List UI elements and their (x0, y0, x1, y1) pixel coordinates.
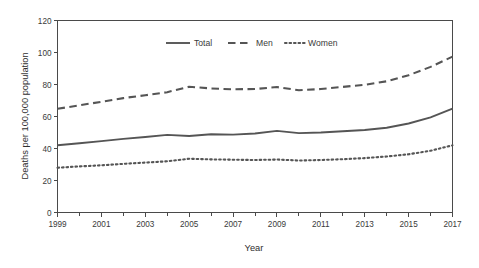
x-tick-label: 2007 (224, 220, 243, 229)
x-tick-label: 2011 (312, 220, 330, 229)
legend-label-men: Men (256, 38, 273, 48)
x-tick-label: 2009 (268, 220, 287, 229)
line-chart: 020406080100120 199920012003200520072009… (0, 0, 479, 268)
y-tick-label: 80 (42, 81, 52, 90)
x-axis-title: Year (245, 243, 264, 253)
x-tick-label: 2001 (92, 220, 111, 229)
legend-label-total: Total (194, 38, 212, 48)
y-axis-title: Deaths per 100,000 population (20, 52, 30, 179)
x-tick-label: 2003 (136, 220, 155, 229)
x-tick-label: 2005 (180, 220, 199, 229)
x-tick-label: 2013 (356, 220, 375, 229)
y-tick-label: 40 (42, 145, 52, 154)
y-tick-label: 120 (38, 17, 52, 26)
chart-figure: 020406080100120 199920012003200520072009… (0, 0, 479, 268)
y-tick-label: 60 (42, 113, 52, 122)
x-tick-label: 2015 (400, 220, 419, 229)
x-tick-label: 2017 (443, 220, 462, 229)
y-tick-label: 20 (42, 177, 52, 186)
y-tick-label: 0 (47, 209, 52, 218)
legend-label-women: Women (308, 38, 338, 48)
x-tick-label: 1999 (48, 220, 67, 229)
y-tick-label: 100 (38, 49, 52, 58)
